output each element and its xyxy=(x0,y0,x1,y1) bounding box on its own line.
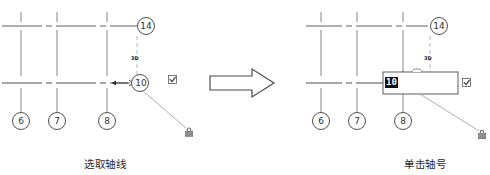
axis-bubble-6-label-left: 6 xyxy=(18,116,24,126)
axis-bubble-6-left[interactable]: 6 xyxy=(13,113,30,130)
figure-root: 14 10 6 7 8 xyxy=(0,0,490,175)
axis-bubble-10-label-left: 10 xyxy=(135,78,147,88)
axis-number-input-value[interactable]: 10 xyxy=(385,77,398,88)
padlock-icon-left[interactable] xyxy=(185,127,192,136)
axis-bubble-10-left[interactable]: 10 xyxy=(132,75,149,92)
axis-bubble-7-left[interactable]: 7 xyxy=(49,113,66,130)
caption-click-axis-number: 单击轴号 xyxy=(280,156,490,171)
annotation-3d-right: 3D xyxy=(424,55,432,61)
axis-bubble-14-label-left: 14 xyxy=(140,21,152,31)
axis-bubble-8-left[interactable]: 8 xyxy=(99,113,116,130)
axis-bubble-6-label-right: 6 xyxy=(318,116,324,126)
leader-line-right xyxy=(420,94,479,131)
panel-select-axis-line: 14 10 6 7 8 xyxy=(0,0,210,175)
axis-bubble-8-label-left: 8 xyxy=(104,116,110,126)
cad-drawing-right: 14 6 7 8 xyxy=(280,0,490,148)
leader-line-left xyxy=(143,91,186,128)
padlock-icon-right[interactable] xyxy=(478,130,485,139)
axis-bubble-14-right[interactable]: 14 xyxy=(431,18,448,35)
transition-arrow-wrap xyxy=(208,66,278,100)
panel-click-axis-number: 14 6 7 8 xyxy=(280,0,490,175)
axis-bubble-8-label-right: 8 xyxy=(400,116,406,126)
axis-bubble-8-right[interactable]: 8 xyxy=(395,113,412,130)
axis-bubble-14-label-right: 14 xyxy=(433,21,445,31)
axis-bubble-7-right[interactable]: 7 xyxy=(349,113,366,130)
crosshair-cursor-icon-left xyxy=(112,80,133,86)
axis-bubble-14-left[interactable]: 14 xyxy=(138,18,155,35)
block-arrow-right-icon xyxy=(208,66,278,100)
cad-drawing-left: 14 10 6 7 8 xyxy=(0,0,210,148)
checkbox-checked-icon-right[interactable] xyxy=(463,79,471,87)
axis-bubble-7-label-right: 7 xyxy=(354,116,360,126)
axis-bubble-7-label-left: 7 xyxy=(54,116,60,126)
annotation-3d-left: 3D xyxy=(131,55,139,61)
axis-bubble-6-right[interactable]: 6 xyxy=(313,113,330,130)
checkbox-checked-icon-left[interactable] xyxy=(169,76,177,84)
caption-select-axis-line: 选取轴线 xyxy=(0,156,210,171)
